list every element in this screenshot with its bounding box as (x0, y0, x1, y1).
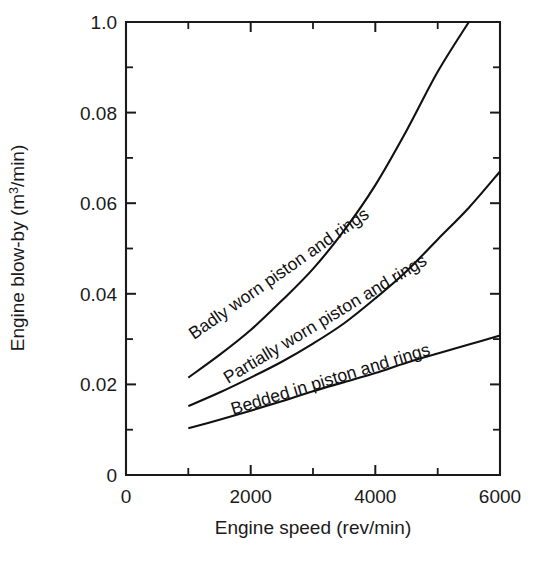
y-axis-title-before: Engine blow-by (m (7, 194, 28, 351)
x-tick-label-6000: 6000 (479, 486, 521, 507)
y-axis-title-group: Engine blow-by (m3/min) (7, 145, 28, 352)
y-axis-ticks (126, 67, 136, 475)
y-tick-label-0.08: 0.08 (80, 103, 117, 124)
y-axis-title-after: /min) (7, 145, 28, 187)
x-tick-labels: 0 2000 4000 6000 (121, 486, 521, 507)
x-axis-ticks (188, 465, 437, 475)
y-tick-label-0.04: 0.04 (80, 284, 117, 305)
y-tick-label-0: 0 (106, 465, 117, 486)
x-tick-label-4000: 4000 (354, 486, 396, 507)
y-tick-label-0.02: 0.02 (80, 374, 117, 395)
top-axis-ticks (188, 22, 437, 32)
y-tick-labels: 1.0 0.08 0.06 0.04 0.02 0 (80, 12, 117, 486)
engine-blow-by-chart: 1.0 0.08 0.06 0.04 0.02 0 0 2000 4000 60… (0, 0, 540, 566)
x-axis-title: Engine speed (rev/min) (215, 517, 411, 538)
y-axis-title: Engine blow-by (m3/min) (7, 145, 28, 352)
y-tick-label-0.06: 0.06 (80, 193, 117, 214)
figure-container: 1.0 0.08 0.06 0.04 0.02 0 0 2000 4000 60… (0, 0, 540, 566)
x-tick-label-0: 0 (121, 486, 132, 507)
x-tick-label-2000: 2000 (230, 486, 272, 507)
y-tick-label-top: 1.0 (91, 12, 117, 33)
right-axis-ticks (490, 67, 500, 429)
y-axis-title-superscript: 3 (7, 187, 21, 194)
